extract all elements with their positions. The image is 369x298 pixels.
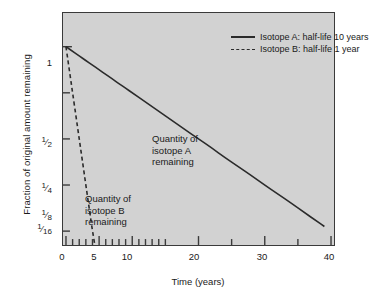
y-tick-label-one-half: 1⁄2 <box>24 136 52 149</box>
fraction-one-eighth: 1⁄8 <box>42 209 52 222</box>
annotation-line-2: isotope A <box>152 145 198 157</box>
annotation-line-2: isotope B <box>85 205 131 217</box>
legend-label-isotope-a: Isotope A: half-life 10 years <box>260 31 369 43</box>
x-tick-label-30: 30 <box>253 252 271 262</box>
legend-solid-line-icon <box>231 36 255 38</box>
isotope-b-annotation: Quantity of isotope B remaining <box>85 193 131 228</box>
fraction-one-half: 1⁄2 <box>42 136 52 149</box>
x-tick-label-10: 10 <box>118 252 136 262</box>
fraction-denominator: 2 <box>48 140 52 149</box>
annotation-line-1: Quantity of <box>85 193 131 205</box>
annotation-line-3: remaining <box>152 156 198 168</box>
y-tick-label-one-sixteenth: 1⁄16 <box>20 223 52 236</box>
fraction-one-quarter: 1⁄4 <box>42 182 52 195</box>
legend-item-isotope-a: Isotope A: half-life 10 years <box>231 31 369 43</box>
legend-dashed-line-icon <box>231 49 255 50</box>
y-tick-label-1: 1 <box>24 58 52 68</box>
y-tick-label-one-quarter: 1⁄4 <box>24 182 52 195</box>
x-axis-title: Time (years) <box>60 276 336 287</box>
legend-item-isotope-b: Isotope B: half-life 1 year <box>231 43 369 55</box>
fraction-denominator: 8 <box>48 213 52 222</box>
legend-label-isotope-b: Isotope B: half-life 1 year <box>260 43 360 55</box>
x-tick-label-0: 0 <box>54 252 70 262</box>
fraction-denominator: 4 <box>48 186 52 195</box>
fraction-one-sixteenth: 1⁄16 <box>37 223 52 236</box>
fraction-denominator: 16 <box>43 227 52 236</box>
x-tick-label-20: 20 <box>185 252 203 262</box>
x-tick-label-40: 40 <box>320 252 338 262</box>
x-tick-label-5: 5 <box>86 252 102 262</box>
legend: Isotope A: half-life 10 years Isotope B:… <box>231 31 369 55</box>
annotation-line-1: Quantity of <box>152 133 198 145</box>
x-axis-ticks <box>66 236 331 245</box>
y-tick-label-one-eighth: 1⁄8 <box>24 209 52 222</box>
annotation-line-3: remaining <box>85 216 131 228</box>
isotope-a-annotation: Quantity of isotope A remaining <box>152 133 198 168</box>
